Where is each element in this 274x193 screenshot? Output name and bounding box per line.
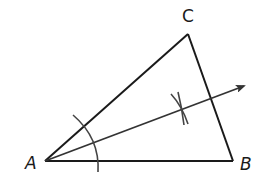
vertex-label-b: B xyxy=(240,154,252,174)
vertex-label-a: A xyxy=(24,153,37,173)
triangle-diagram: A B C xyxy=(0,0,274,193)
compass-arc-vertex xyxy=(73,115,98,172)
angle-bisector-ray xyxy=(45,86,244,161)
side-bc xyxy=(188,34,233,161)
diagram-canvas: A B C xyxy=(0,0,274,193)
vertex-label-c: C xyxy=(182,6,194,26)
side-ac xyxy=(45,34,188,161)
